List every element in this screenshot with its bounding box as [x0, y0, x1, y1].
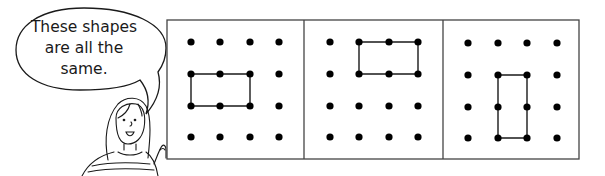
girl-character — [82, 98, 166, 176]
speech-text: These shapes are all the same. — [22, 17, 146, 80]
dot-grid — [326, 38, 421, 140]
rectangle-shape — [359, 42, 418, 74]
speech-line-2: are all the — [22, 38, 146, 59]
grid-panel-2 — [326, 38, 421, 140]
grid-panel-3 — [464, 39, 560, 141]
rectangle-shape — [191, 74, 250, 106]
dot-grid — [464, 39, 560, 141]
grid-panel-1 — [187, 38, 282, 140]
speech-line-1: These shapes — [22, 17, 146, 38]
dot-grid — [187, 38, 282, 140]
rectangle-shape — [498, 75, 527, 138]
speech-line-3: same. — [22, 59, 146, 80]
